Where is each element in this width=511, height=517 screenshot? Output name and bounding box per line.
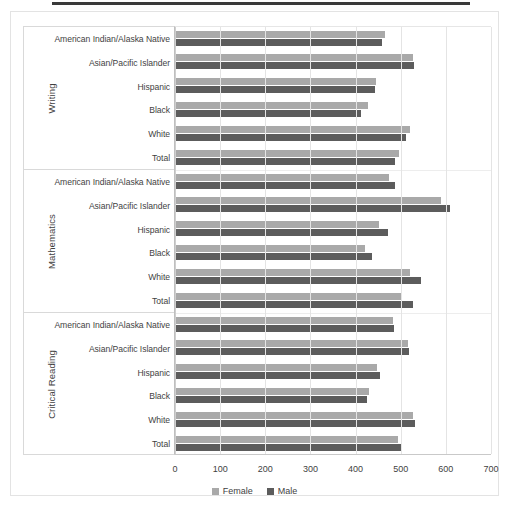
top-divider-rule [52,2,470,5]
bar-female [175,126,410,133]
bar-row [175,408,491,432]
gridline-400 [356,27,357,454]
bar-row [175,75,491,99]
bar-male [175,372,380,379]
x-tick-label-500: 500 [393,464,408,474]
bar-female [175,102,368,109]
bar-row [175,170,491,194]
bar-female [175,31,385,38]
legend-label: Female [223,486,253,496]
category-label: White [42,265,170,289]
bar-row [175,432,491,456]
category-label: Hispanic [42,218,170,242]
category-label: American Indian/Alaska Native [42,27,170,51]
group-block-writing: WritingAmerican Indian/Alaska NativeAsia… [24,27,174,170]
category-label: Asian/Pacific Islander [42,51,170,75]
bar-row [175,384,491,408]
bar-row [175,146,491,170]
chart-legend: FemaleMale [11,486,498,496]
group-block-critical-reading: Critical ReadingAmerican Indian/Alaska N… [24,313,174,456]
legend-swatch-male [267,488,274,495]
bar-male [175,110,361,117]
bar-row [175,51,491,75]
bar-row [175,218,491,242]
category-label: White [42,408,170,432]
bar-male [175,325,394,332]
gridline-300 [310,27,311,454]
bar-female [175,245,365,252]
legend-item-female[interactable]: Female [212,486,253,496]
bar-male [175,39,382,46]
gridline-200 [265,27,266,454]
chart-frame: WritingAmerican Indian/Alaska NativeAsia… [10,11,499,496]
category-label: Total [42,289,170,313]
bar-male [175,420,415,427]
bar-female [175,340,408,347]
bar-row [175,313,491,337]
x-tick-label-300: 300 [303,464,318,474]
bar-male [175,158,395,165]
bar-male [175,134,406,141]
gridline-0 [175,27,176,454]
bar-female [175,269,410,276]
bar-female [175,293,401,300]
bar-female [175,364,377,371]
bar-row [175,122,491,146]
bar-row [175,98,491,122]
gridline-100 [220,27,221,454]
category-label: Total [42,146,170,170]
category-label: Asian/Pacific Islander [42,337,170,361]
gridline-700 [491,27,492,454]
category-label: American Indian/Alaska Native [42,170,170,194]
bar-female [175,78,376,85]
bar-female [175,436,398,443]
bar-female [175,317,393,324]
bar-male [175,277,421,284]
category-label: Black [42,384,170,408]
bar-female [175,174,389,181]
bar-row [175,289,491,313]
bar-male [175,301,413,308]
gridline-600 [446,27,447,454]
x-tick-label-0: 0 [172,464,177,474]
x-tick-label-700: 700 [483,464,498,474]
category-label-list: American Indian/Alaska NativeAsian/Pacif… [42,313,170,456]
category-label-list: American Indian/Alaska NativeAsian/Pacif… [42,27,170,170]
bar-row [175,27,491,51]
bar-group-mathematics [175,170,491,313]
category-label: Asian/Pacific Islander [42,194,170,218]
bar-row [175,265,491,289]
category-axis: WritingAmerican Indian/Alaska NativeAsia… [23,26,175,455]
category-label-list: American Indian/Alaska NativeAsian/Pacif… [42,170,170,313]
bar-female [175,54,413,61]
x-tick-label-400: 400 [348,464,363,474]
bar-row [175,241,491,265]
legend-label: Male [278,486,298,496]
gridline-500 [401,27,402,454]
bar-male [175,205,450,212]
legend-item-male[interactable]: Male [267,486,298,496]
category-label: Hispanic [42,361,170,385]
bar-row [175,361,491,385]
category-label: Black [42,241,170,265]
legend-swatch-female [212,488,219,495]
bar-group-writing [175,27,491,170]
category-label: American Indian/Alaska Native [42,313,170,337]
chart-body: WritingAmerican Indian/Alaska NativeAsia… [23,26,491,456]
bar-female [175,150,399,157]
x-tick-label-600: 600 [438,464,453,474]
category-label: Black [42,98,170,122]
chart-screenshot: WritingAmerican Indian/Alaska NativeAsia… [0,0,511,517]
group-block-mathematics: MathematicsAmerican Indian/Alaska Native… [24,170,174,313]
bar-male [175,86,375,93]
x-axis-ticks: 0100200300400500600700 [175,464,491,478]
bar-group-critical-reading [175,313,491,456]
bar-female [175,388,369,395]
bar-male [175,182,395,189]
category-label: Total [42,432,170,456]
bar-rows [175,27,491,454]
bar-female [175,412,413,419]
category-label: Hispanic [42,75,170,99]
bar-male [175,348,409,355]
bar-female [175,221,379,228]
